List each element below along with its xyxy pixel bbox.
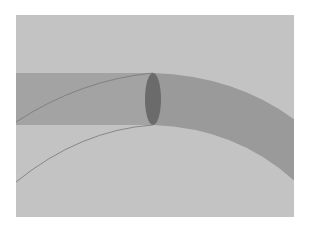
diagram-canvas xyxy=(0,0,312,232)
straight-tube xyxy=(16,73,153,125)
cross-section-ellipse xyxy=(145,73,161,125)
